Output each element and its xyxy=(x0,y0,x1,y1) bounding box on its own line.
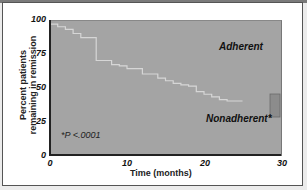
x-tick-10: 10 xyxy=(115,158,139,168)
x-axis xyxy=(49,154,281,156)
x-tick-0: 0 xyxy=(38,158,62,168)
y-axis-label: Percent patients remaining in remission xyxy=(18,15,38,155)
p-value-annotation: *P <.0001 xyxy=(61,130,100,140)
y-axis-label-line1: Percent patients xyxy=(18,15,28,155)
series-label-adherent: Adherent xyxy=(219,41,263,52)
series-label-nonadherent: Nonadherent* xyxy=(206,113,272,124)
y-axis xyxy=(49,20,51,156)
x-tick-20: 20 xyxy=(193,158,217,168)
x-tick-30: 30 xyxy=(270,158,294,168)
x-axis-label: Time (months) xyxy=(130,168,192,178)
y-axis-label-line2: remaining in remission xyxy=(28,15,38,155)
